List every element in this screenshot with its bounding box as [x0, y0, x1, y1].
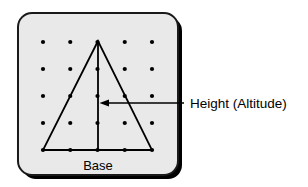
- height-altitude-label: Height (Altitude): [190, 96, 287, 111]
- grid-dot: [123, 121, 127, 125]
- grid-dot: [68, 67, 72, 71]
- grid-dot: [41, 40, 45, 44]
- grid-dot: [41, 67, 45, 71]
- grid-dot: [41, 121, 45, 125]
- base-label: Base: [83, 158, 113, 173]
- grid-dot: [150, 121, 154, 125]
- grid-dot: [123, 67, 127, 71]
- grid-dot: [150, 94, 154, 98]
- geometry-diagram: Base Height (Altitude): [0, 0, 308, 187]
- grid-dot: [150, 67, 154, 71]
- grid-dot: [68, 121, 72, 125]
- grid-dot: [68, 40, 72, 44]
- grid-dot: [41, 94, 45, 98]
- grid-dot: [123, 40, 127, 44]
- triangle-height-figure: Base Height (Altitude): [0, 0, 308, 187]
- grid-dot: [150, 40, 154, 44]
